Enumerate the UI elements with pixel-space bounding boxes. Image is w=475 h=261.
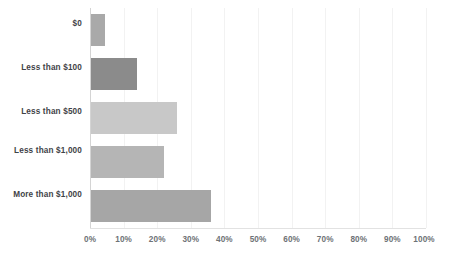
bar-row [90,14,426,46]
y-axis-label-2: Less than $500 [0,107,82,118]
bar-3[interactable] [90,146,164,178]
x-tick-9: 90% [384,234,401,245]
x-tick-3: 30% [182,234,199,245]
bar-row [90,146,426,178]
y-axis-line [90,8,91,228]
y-axis-label-4: More than $1,000 [0,190,82,201]
x-tick-6: 60% [283,234,300,245]
x-tick-0: 0% [84,234,96,245]
bar-2[interactable] [90,102,177,134]
x-axis-line [90,228,426,229]
bar-row [90,58,426,90]
x-tick-2: 20% [149,234,166,245]
x-tick-8: 80% [350,234,367,245]
bar-row [90,190,426,222]
bar-row [90,102,426,134]
y-axis-label-3: Less than $1,000 [0,146,82,157]
x-tick-1: 10% [115,234,132,245]
bar-4[interactable] [90,190,211,222]
x-tick-5: 50% [250,234,267,245]
gridline [426,8,427,228]
plot-area [90,8,426,228]
y-axis-label-1: Less than $100 [0,63,82,74]
x-tick-7: 70% [317,234,334,245]
bar-0[interactable] [90,14,105,46]
bar-chart: $0 Less than $100 Less than $500 Less th… [0,0,475,261]
x-tick-10: 100% [413,234,434,245]
x-tick-4: 40% [216,234,233,245]
bar-1[interactable] [90,58,137,90]
y-axis-label-0: $0 [0,19,82,30]
